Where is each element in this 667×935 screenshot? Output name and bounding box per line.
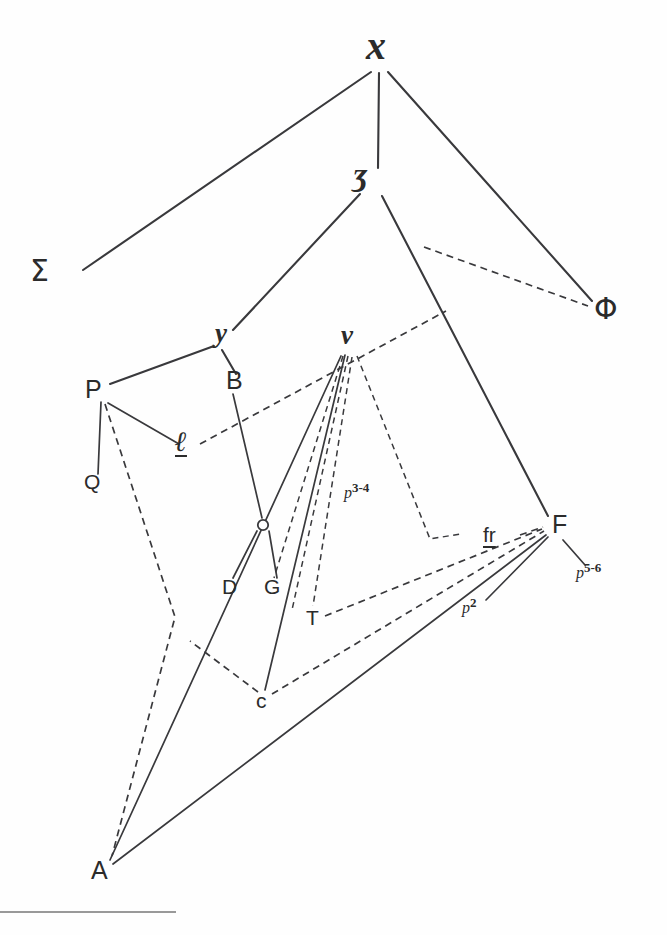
node-label-x: x: [366, 26, 386, 66]
annotation-p56-base: p: [576, 564, 584, 581]
node-label-Q: Q: [84, 471, 100, 492]
node-label-A: A: [91, 858, 108, 883]
edge-v-G2: [292, 356, 348, 610]
edge-v-fr: [357, 356, 460, 539]
node-label-B: B: [226, 368, 243, 393]
junction-node: [258, 520, 268, 530]
edge-c-A-dashed: [190, 641, 258, 692]
edge-y-P: [110, 346, 214, 384]
edge-zeta-F: [382, 196, 548, 516]
edge-x-zeta: [378, 73, 379, 168]
node-label-P: P: [85, 377, 102, 402]
edge-P-A-dashed: [105, 404, 175, 856]
node-label-fr: fr: [483, 524, 496, 545]
stemma-edges: [0, 0, 667, 935]
node-label-F: F: [552, 512, 567, 537]
edge-junction-D: [233, 531, 257, 578]
annotation-p56-sup: 5-6: [584, 560, 601, 575]
node-label-T: T: [306, 607, 319, 628]
diagram-canvas: x ʒ Σ Φ y v B P ℓ Q F fr D G T c A p3-4 …: [0, 0, 667, 935]
edge-v-G: [274, 356, 343, 578]
annotation-p34-base: p: [344, 484, 352, 501]
edge-v-c: [265, 355, 345, 690]
node-label-D: D: [222, 576, 237, 597]
node-label-v: v: [341, 322, 353, 349]
node-label-G: G: [264, 576, 280, 597]
annotation-p56: p5-6: [576, 561, 601, 581]
edge-zeta-phi-dashed: [424, 247, 588, 306]
edge-zeta-y: [233, 194, 360, 330]
node-label-phi: Φ: [594, 294, 618, 324]
edge-P-Q: [98, 402, 101, 474]
annotation-p2-sup: 2: [470, 595, 477, 610]
edge-A-F: [113, 535, 546, 864]
annotation-p34-sup: 3-4: [352, 480, 369, 495]
annotation-p34: p3-4: [344, 481, 369, 501]
node-label-sigma: Σ: [30, 256, 49, 286]
edge-T-F-dashed: [325, 529, 542, 616]
node-label-zeta: ʒ: [353, 158, 368, 190]
edge-F-p2: [486, 537, 548, 600]
node-label-c: c: [256, 690, 267, 711]
edge-x-sigma: [83, 72, 371, 270]
edge-P-ell: [108, 403, 179, 444]
node-label-ell: ℓ: [175, 428, 187, 456]
annotation-p2-base: p: [462, 599, 470, 616]
annotation-p2: p2: [462, 596, 477, 616]
node-label-y: y: [215, 320, 227, 347]
edge-junction-G: [269, 531, 277, 578]
